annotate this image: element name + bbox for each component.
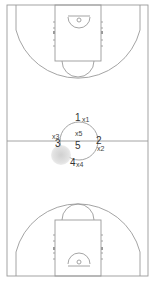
defender-x4[interactable]: x4 (76, 161, 83, 168)
bottom-three-point-line (16, 204, 140, 276)
bottom-key (55, 220, 101, 276)
player-5[interactable]: 5 (75, 141, 81, 151)
defender-x1[interactable]: x1 (82, 116, 89, 123)
bottom-rim (77, 260, 81, 264)
top-half (16, 5, 140, 78)
defender-x3[interactable]: x3 (52, 133, 59, 140)
top-rim (77, 18, 81, 22)
top-key (55, 5, 101, 61)
bottom-restricted-arc (68, 253, 90, 264)
bottom-free-throw-semicircle (62, 204, 94, 220)
player-1[interactable]: 1 (75, 113, 81, 123)
top-lane-hashes (53, 22, 103, 46)
bottom-half (16, 204, 140, 276)
defender-x5[interactable]: x5 (75, 130, 82, 137)
highlight-shadow (51, 145, 71, 165)
top-free-throw-semicircle (62, 61, 94, 77)
player-3[interactable]: 3 (55, 139, 61, 149)
top-restricted-arc (68, 17, 90, 28)
player-4[interactable]: 4 (70, 158, 76, 168)
defender-x2[interactable]: x2 (97, 145, 104, 152)
bottom-lane-hashes (53, 235, 103, 259)
